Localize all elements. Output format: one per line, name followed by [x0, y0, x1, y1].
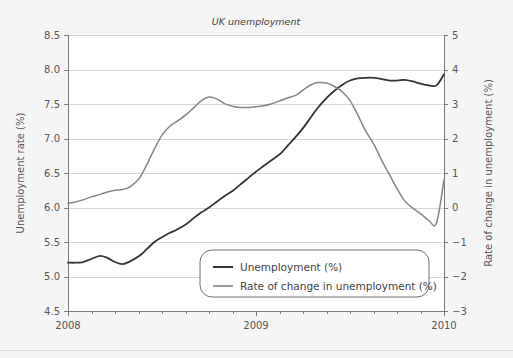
y-axis-tick-label: 6.0 — [44, 202, 60, 213]
y-axis-tick-label: 4.5 — [44, 306, 60, 317]
y2-axis-tick-labels: −3−2−1012345 — [452, 30, 467, 317]
y2-axis-tick-label: 3 — [452, 99, 458, 110]
y-axis-tick-label: 8.0 — [44, 64, 60, 75]
y2-axis-tick-label: 4 — [452, 64, 458, 75]
y-axis-tick-labels: 4.55.05.56.06.57.07.58.08.5 — [44, 30, 60, 317]
y2-axis-title: Rate of change in unemployment (%) — [483, 79, 494, 267]
y-axis-tick-label: 6.5 — [44, 168, 60, 179]
y2-axis-tick-label: 0 — [452, 202, 458, 213]
y-axis-tick-label: 5.5 — [44, 237, 60, 248]
screenshot-root: 4.55.05.56.06.57.07.58.08.5 −3−2−1012345… — [0, 0, 513, 358]
y2-axis-tick-label: 2 — [452, 133, 458, 144]
y-axis-tick-label: 8.5 — [44, 30, 60, 41]
chart-figure: 4.55.05.56.06.57.07.58.08.5 −3−2−1012345… — [0, 0, 513, 345]
y2-axis-tick-label: 5 — [452, 30, 458, 41]
y-axis-tick-label: 5.0 — [44, 271, 60, 282]
x-axis-tick-label: 2008 — [55, 320, 80, 331]
y-axis-tick-label: 7.0 — [44, 133, 60, 144]
y-axis-title: Unemployment rate (%) — [15, 112, 26, 233]
chart-legend: Unemployment (%)Rate of change in unempl… — [200, 250, 437, 297]
legend-label: Unemployment (%) — [240, 261, 342, 273]
x-axis-tick-label: 2010 — [431, 320, 456, 331]
y-axis-tick-label: 7.5 — [44, 99, 60, 110]
y2-axis-tick-label: −1 — [452, 237, 467, 248]
uk-unemployment-chart: 4.55.05.56.06.57.07.58.08.5 −3−2−1012345… — [0, 0, 513, 345]
x-axis-tick-labels: 200820092010 — [55, 320, 456, 331]
y2-axis-tick-label: 1 — [452, 168, 458, 179]
chart-title: UK unemployment — [212, 16, 302, 27]
x-axis-tick-label: 2009 — [243, 320, 268, 331]
legend-label: Rate of change in unemployment (%) — [240, 280, 437, 292]
y2-axis-tick-label: −3 — [452, 306, 467, 317]
y2-axis-tick-label: −2 — [452, 271, 467, 282]
